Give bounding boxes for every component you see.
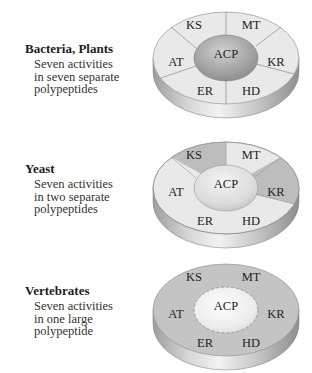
- organism-description: Seven activities in seven separate polyp…: [34, 58, 119, 96]
- acp-region: [194, 287, 258, 333]
- label-mt: MT: [242, 148, 261, 162]
- label-ks: KS: [186, 18, 202, 32]
- description-line: polypeptides: [34, 83, 119, 96]
- description-line: in one large: [34, 313, 113, 326]
- label-hd: HD: [242, 84, 260, 98]
- organism-title: Bacteria, Plants: [25, 42, 119, 56]
- label-acp: ACP: [214, 177, 238, 191]
- label-hd: HD: [242, 214, 260, 228]
- label-mt: MT: [242, 270, 261, 284]
- caption: Bacteria, Plants Seven activities in sev…: [25, 42, 119, 96]
- description-line: polypeptide: [34, 325, 113, 338]
- label-at: AT: [168, 307, 184, 321]
- label-er: ER: [197, 336, 214, 350]
- label-hd: HD: [242, 336, 260, 350]
- fas-disc-diagram: ACP KS MT KR HD ER AT: [148, 6, 308, 121]
- caption: Vertebrates Seven activities in one larg…: [25, 284, 113, 338]
- label-kr: KR: [267, 55, 285, 69]
- label-acp: ACP: [214, 47, 238, 61]
- acp-dome: [194, 165, 258, 211]
- description-line: Seven activities: [34, 178, 113, 191]
- label-ks: KS: [186, 148, 202, 162]
- description-line: in two separate: [34, 191, 113, 204]
- label-ks: KS: [186, 270, 202, 284]
- fas-disc-diagram: ACP KS MT KR HD ER AT: [148, 136, 308, 251]
- caption: Yeast Seven activities in two separate p…: [25, 162, 113, 216]
- organism-description: Seven activities in two separate polypep…: [34, 178, 113, 216]
- label-mt: MT: [242, 18, 261, 32]
- panel-bacteria-plants: Bacteria, Plants Seven activities in sev…: [0, 0, 312, 125]
- organism-title: Vertebrates: [25, 284, 113, 298]
- organism-title: Yeast: [25, 162, 113, 176]
- label-at: AT: [168, 185, 184, 199]
- label-at: AT: [168, 55, 184, 69]
- label-er: ER: [197, 84, 214, 98]
- description-line: Seven activities: [34, 300, 113, 313]
- description-line: polypeptides: [34, 203, 113, 216]
- label-kr: KR: [267, 307, 285, 321]
- label-er: ER: [197, 214, 214, 228]
- label-acp: ACP: [214, 299, 238, 313]
- fas-disc-diagram: ACP KS MT KR HD ER AT: [148, 258, 308, 373]
- organism-description: Seven activities in one large polypeptid…: [34, 300, 113, 338]
- description-line: Seven activities: [34, 58, 119, 71]
- label-kr: KR: [267, 185, 285, 199]
